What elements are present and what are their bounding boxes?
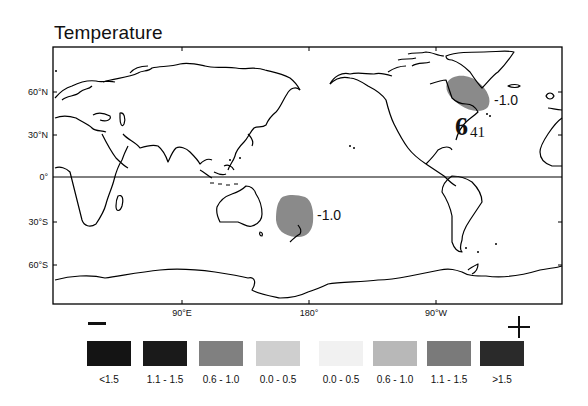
north-atlantic-anomaly-label: -1.0: [494, 92, 518, 108]
coast-south-america: [442, 176, 482, 252]
legend-label: 1.1 - 1.5: [419, 374, 479, 385]
lat-label-60s: 60°S: [8, 260, 48, 270]
coast-arabia: [102, 134, 128, 168]
coast-central-america: [426, 147, 456, 186]
lon-label-90e: 90°E: [162, 308, 202, 318]
legend-label: 0.0 - 0.5: [311, 374, 371, 385]
southwest-pacific-anomaly-label: -1.0: [317, 207, 341, 223]
legend-swatch-neg-0.0-0.5: [256, 341, 300, 366]
north-atlantic-anomaly: [446, 76, 489, 111]
antarctic-peninsula: [468, 264, 478, 274]
iceland: [508, 85, 520, 88]
minus-sign-icon: [88, 322, 106, 325]
legend-label: 0.6 - 1.0: [191, 374, 251, 385]
legend-swatch-neg-0.6-1.0: [199, 341, 243, 366]
lon-label-90w: 90°W: [416, 308, 456, 318]
madagascar: [116, 195, 123, 210]
hurricane-count-label: 41: [470, 124, 485, 141]
coast-eurasia-arctic: [103, 63, 300, 90]
legend-label: 1.1 - 1.5: [135, 374, 195, 385]
legend-label: 0.6 - 1.0: [365, 374, 425, 385]
plus-sign-icon: [508, 316, 530, 338]
lat-label-30n: 30°N: [8, 130, 48, 140]
legend-swatch-pos-0.0-0.5: [319, 341, 363, 366]
coast-antarctica: [55, 266, 562, 298]
southwest-pacific-anomaly: [276, 195, 313, 237]
legend-label: 0.0 - 0.5: [248, 374, 308, 385]
legend-swatch-neg-gt1.5: [87, 341, 131, 366]
coast-canada-arctic: [388, 52, 444, 72]
lat-label-60n: 60°N: [8, 87, 48, 97]
map-frame: [53, 47, 562, 304]
coast-north-america-west: [330, 77, 426, 164]
legend-swatch-pos-1.1-1.5: [427, 341, 471, 366]
lon-label-180: 180°: [289, 308, 329, 318]
lat-label-30s: 30°S: [8, 217, 48, 227]
tasmania: [260, 232, 263, 236]
coast-europe-north: [55, 81, 115, 100]
coast-iberia-east: [548, 108, 562, 110]
lat-label-equator: 0°: [8, 172, 48, 182]
coast-europe-south: [55, 113, 110, 132]
coast-east-asia: [228, 88, 300, 170]
coast-africa: [55, 146, 128, 226]
legend-swatch-neg-1.1-1.5: [143, 341, 187, 366]
hurricane-icon: 6: [455, 114, 468, 140]
legend-swatch-pos-0.6-1.0: [373, 341, 417, 366]
coast-australia: [217, 186, 262, 227]
coast-west-africa-east: [540, 118, 562, 166]
caspian-sea: [120, 113, 125, 126]
british-isles: [546, 93, 554, 99]
coast-maritime-se-asia: [200, 165, 238, 185]
legend-swatch-pos-gt1.5: [480, 341, 524, 366]
coast-south-asia: [123, 134, 212, 164]
legend-label: <1.5: [79, 374, 139, 385]
legend-label: >1.5: [472, 374, 532, 385]
